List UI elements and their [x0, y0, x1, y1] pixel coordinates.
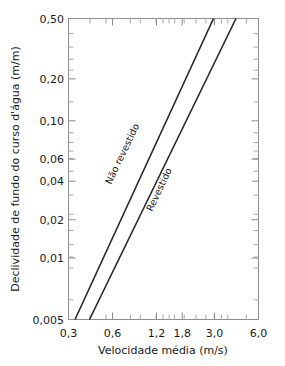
x-tick-label: 1,8 — [173, 327, 191, 340]
y-tick-label: 0,20 — [40, 73, 65, 86]
x-tick-label: 6,0 — [250, 327, 268, 340]
x-tick-label: 1,2 — [148, 327, 166, 340]
chart-svg: Não revestido Revestido 0,50 0,20 0,10 0… — [0, 0, 285, 366]
x-tick-label: 0,6 — [104, 327, 122, 340]
y-tick-label: 0,50 — [40, 13, 65, 26]
x-tick-label: 3,0 — [206, 327, 224, 340]
y-tick-label: 0,06 — [40, 153, 65, 166]
y-tick-label: 0,005 — [33, 314, 65, 327]
y-tick-label: 0,02 — [40, 214, 65, 227]
chart-figure: Não revestido Revestido 0,50 0,20 0,10 0… — [0, 0, 285, 366]
x-tick-label: 0,3 — [60, 327, 78, 340]
x-axis-title: Velocidade média (m/s) — [98, 344, 228, 357]
y-tick-label: 0,10 — [40, 115, 65, 128]
y-tick-label: 0,04 — [40, 175, 65, 188]
y-axis-title: Declividade de fundo do curso d'água (m/… — [9, 46, 22, 292]
y-tick-label: 0,01 — [40, 252, 65, 265]
